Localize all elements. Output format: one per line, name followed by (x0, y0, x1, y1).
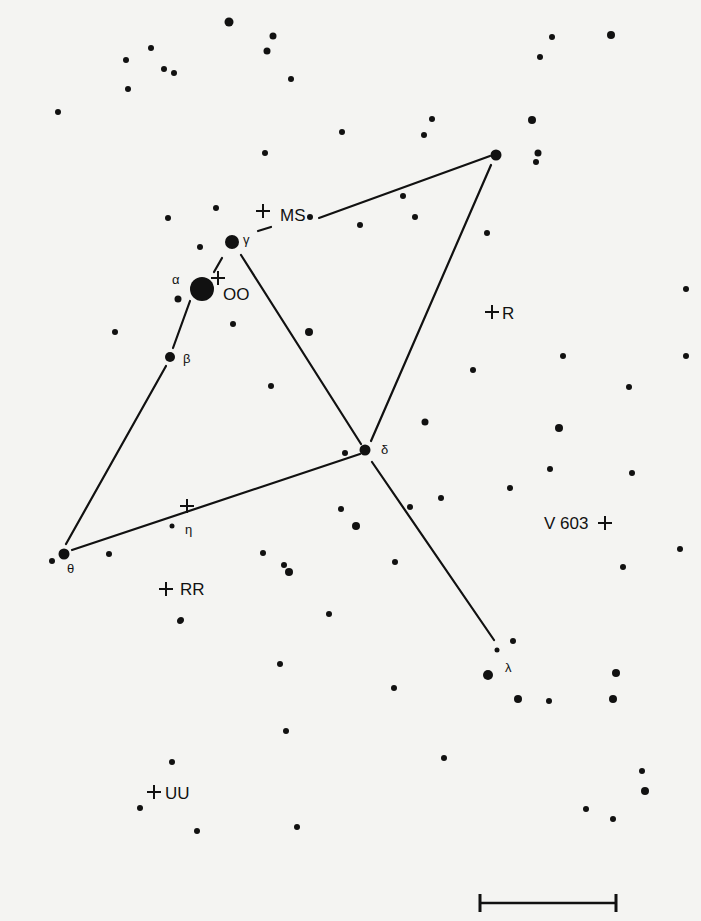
star-label-delta: δ (381, 442, 388, 457)
field-star (620, 564, 626, 570)
field-star (125, 86, 131, 92)
field-star (270, 33, 277, 40)
field-star (683, 353, 689, 359)
field-star (583, 806, 589, 812)
star-top (491, 150, 502, 161)
field-star (177, 618, 183, 624)
star-beta (165, 352, 175, 362)
field-star (197, 244, 203, 250)
field-star (352, 522, 360, 530)
field-star (612, 669, 620, 677)
field-star (484, 230, 490, 236)
field-star (326, 611, 332, 617)
field-star (230, 321, 236, 327)
field-star (438, 495, 444, 501)
field-star (400, 193, 406, 199)
field-star (607, 31, 615, 39)
field-star (392, 559, 398, 565)
star-label-eta: η (185, 522, 192, 537)
variable-star-label: RR (180, 580, 205, 599)
field-star (549, 34, 555, 40)
star-label-gamma: γ (243, 232, 250, 247)
field-star (194, 828, 200, 834)
field-star (441, 755, 447, 761)
field-star (264, 48, 271, 55)
field-star (307, 214, 313, 220)
field-star (470, 367, 476, 373)
field-star (49, 558, 55, 564)
field-star (342, 450, 348, 456)
field-star (510, 638, 516, 644)
field-star (281, 562, 287, 568)
field-star (165, 215, 171, 221)
field-star (626, 384, 632, 390)
star-chart: αβγδηθλ MSOORV 603RRUU (0, 0, 701, 921)
field-star (514, 695, 522, 703)
star-label-theta: θ (67, 561, 74, 576)
field-star (537, 54, 543, 60)
field-star (407, 504, 413, 510)
field-star (641, 787, 649, 795)
field-star (555, 424, 563, 432)
field-star (391, 685, 397, 691)
field-star (560, 353, 566, 359)
variable-star-label: V 603 (544, 514, 588, 533)
field-star (507, 485, 513, 491)
variable-star-label: OO (223, 285, 249, 304)
star-label-lambda: λ (505, 660, 512, 675)
field-star (683, 286, 689, 292)
field-star (277, 661, 283, 667)
field-star (288, 76, 294, 82)
field-star (429, 116, 435, 122)
field-star (412, 214, 418, 220)
field-star (629, 470, 635, 476)
field-star (422, 419, 429, 426)
field-star (123, 57, 129, 63)
variable-star-label: R (502, 304, 514, 323)
star-alpha (190, 277, 214, 301)
field-star (483, 670, 493, 680)
field-star (268, 383, 274, 389)
field-star (339, 129, 345, 135)
field-star (610, 816, 616, 822)
field-star (260, 550, 266, 556)
chart-background (0, 0, 701, 921)
field-star (213, 205, 219, 211)
field-star (609, 695, 617, 703)
field-star (285, 568, 293, 576)
field-star (262, 150, 268, 156)
star-label-beta: β (183, 351, 190, 366)
field-star (283, 728, 289, 734)
field-star (535, 150, 542, 157)
field-star (546, 698, 552, 704)
field-star (225, 18, 234, 27)
star-delta (360, 445, 371, 456)
field-star (161, 66, 167, 72)
variable-star-label: MS (280, 206, 306, 225)
field-star (338, 506, 344, 512)
field-star (137, 805, 143, 811)
field-star (148, 45, 154, 51)
field-star (677, 546, 683, 552)
field-star (305, 328, 313, 336)
star-lambda (495, 648, 500, 653)
field-star (421, 132, 427, 138)
field-star (357, 222, 363, 228)
variable-star-label: UU (165, 784, 190, 803)
star-eta (170, 524, 175, 529)
field-star (294, 824, 300, 830)
field-star (528, 116, 536, 124)
field-star (106, 551, 112, 557)
star-gamma (225, 235, 239, 249)
field-star (533, 159, 539, 165)
field-star (175, 296, 182, 303)
field-star (169, 759, 175, 765)
star-theta (59, 549, 70, 560)
star-label-alpha: α (172, 272, 180, 287)
field-star (55, 109, 61, 115)
field-star (171, 70, 177, 76)
field-star (639, 768, 645, 774)
field-star (112, 329, 118, 335)
field-star (547, 466, 553, 472)
